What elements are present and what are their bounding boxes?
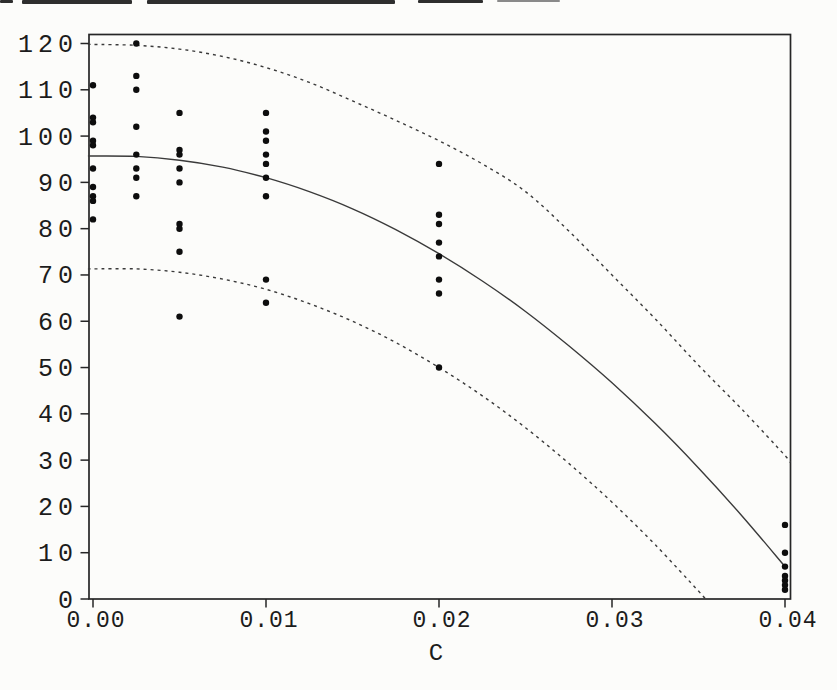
data-point	[133, 151, 139, 157]
data-point	[176, 249, 182, 255]
x-axis-tick-label: 0.00	[66, 608, 125, 634]
y-axis-tick-label: 90	[38, 170, 78, 199]
data-point	[90, 216, 96, 222]
data-point	[176, 226, 182, 232]
data-point	[133, 40, 139, 46]
data-point	[90, 119, 96, 125]
data-point	[133, 193, 139, 199]
data-point	[263, 193, 269, 199]
data-point	[90, 142, 96, 148]
data-point	[133, 87, 139, 93]
data-point	[263, 151, 269, 157]
data-point	[436, 276, 442, 282]
data-point	[90, 82, 96, 88]
data-point	[263, 300, 269, 306]
x-axis-tick-label: 0.02	[412, 608, 471, 634]
data-point	[176, 110, 182, 116]
y-axis-tick-label: 50	[38, 355, 78, 384]
data-point	[436, 221, 442, 227]
x-axis-title: C	[429, 640, 443, 667]
data-point	[436, 364, 442, 370]
data-point	[133, 165, 139, 171]
data-point	[436, 239, 442, 245]
data-point	[782, 522, 788, 528]
y-axis-tick-label: 70	[38, 262, 78, 291]
data-point	[133, 175, 139, 181]
y-axis-tick-label: 100	[18, 124, 78, 153]
data-point	[436, 161, 442, 167]
data-point	[782, 550, 788, 556]
x-axis-tick-label: 0.04	[758, 608, 817, 634]
data-point	[90, 165, 96, 171]
x-axis-tick-label: 0.03	[585, 608, 644, 634]
x-axis-tick-label: 0.01	[239, 608, 298, 634]
data-point	[263, 110, 269, 116]
data-point	[90, 198, 96, 204]
y-axis-tick-label: 80	[38, 216, 78, 245]
plot-frame	[89, 35, 791, 600]
data-point	[263, 138, 269, 144]
data-point	[176, 313, 182, 319]
y-axis-tick-label: 120	[18, 31, 78, 60]
data-point	[90, 184, 96, 190]
data-point	[782, 587, 788, 593]
data-point	[263, 128, 269, 134]
y-axis-tick-label: 10	[38, 540, 78, 569]
y-axis-tick-label: 40	[38, 401, 78, 430]
data-point	[176, 179, 182, 185]
y-axis-tick-label: 60	[38, 309, 78, 338]
data-point	[436, 212, 442, 218]
y-axis-tick-label: 110	[18, 77, 78, 106]
scanned-figure-page: 01020304050607080901001101200.000.010.02…	[0, 0, 837, 690]
data-point	[133, 124, 139, 130]
data-point	[436, 253, 442, 259]
data-point	[133, 73, 139, 79]
data-point	[263, 276, 269, 282]
y-axis-tick-label: 20	[38, 494, 78, 523]
data-point	[263, 161, 269, 167]
data-point	[782, 563, 788, 569]
y-axis-tick-label: 30	[38, 448, 78, 477]
fit-curve	[89, 156, 785, 567]
scatter-plot: 01020304050607080901001101200.000.010.02…	[0, 0, 837, 690]
data-point	[436, 290, 442, 296]
data-point	[263, 175, 269, 181]
data-point	[176, 165, 182, 171]
data-point	[176, 151, 182, 157]
